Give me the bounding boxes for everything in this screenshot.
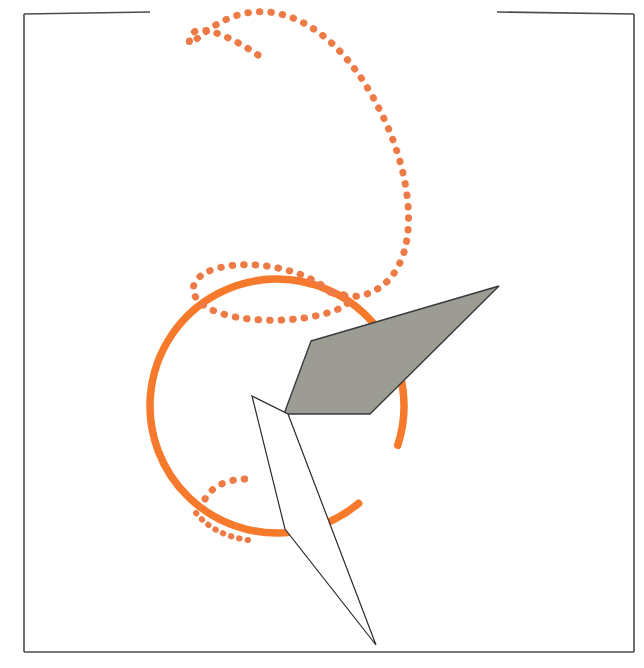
figure-canvas (0, 0, 644, 668)
figure-root (0, 0, 644, 668)
